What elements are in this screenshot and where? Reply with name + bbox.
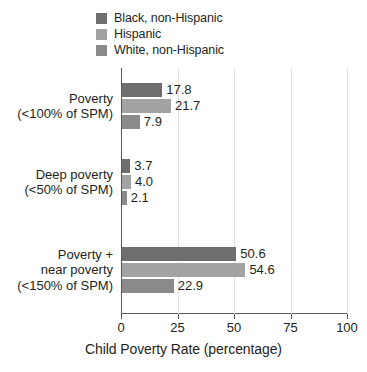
category-label-line: (<100% of SPM) bbox=[0, 106, 113, 122]
x-gridline bbox=[347, 68, 348, 314]
bar-value-label: 22.9 bbox=[178, 279, 203, 293]
legend-item[interactable]: White, non-Hispanic bbox=[96, 43, 336, 58]
category-label-line: near poverty bbox=[0, 262, 113, 278]
category-label: Deep poverty(<50% of SPM) bbox=[0, 167, 113, 198]
bar-value-label: 2.1 bbox=[131, 191, 149, 205]
legend-item[interactable]: Black, non-Hispanic bbox=[96, 11, 336, 26]
x-tick-mark bbox=[234, 314, 235, 319]
category-label-line: Poverty bbox=[0, 91, 113, 107]
bar-value-label: 54.6 bbox=[249, 263, 274, 277]
legend-swatch-icon bbox=[96, 29, 107, 40]
child-poverty-rate-bar-chart: Black, non-HispanicHispanicWhite, non-Hi… bbox=[0, 0, 367, 372]
bar bbox=[122, 279, 174, 293]
x-gridline bbox=[291, 68, 292, 314]
legend-item-label: Hispanic bbox=[114, 28, 161, 41]
x-tick-mark bbox=[178, 314, 179, 319]
legend-item[interactable]: Hispanic bbox=[96, 27, 336, 42]
bar bbox=[122, 263, 245, 277]
legend-swatch-icon bbox=[96, 45, 107, 56]
x-gridline bbox=[234, 68, 235, 314]
category-axis-labels: Poverty(<100% of SPM)Deep poverty(<50% o… bbox=[0, 68, 113, 314]
plot-area: 025507510017.83.750.621.74.054.67.92.122… bbox=[121, 68, 347, 314]
x-tick-mark bbox=[121, 314, 122, 319]
x-axis-title: Child Poverty Rate (percentage) bbox=[0, 341, 367, 357]
bar bbox=[122, 175, 131, 189]
x-tick-label: 25 bbox=[158, 320, 198, 335]
bar-value-label: 50.6 bbox=[240, 247, 265, 261]
legend-item-label: Black, non-Hispanic bbox=[114, 12, 223, 25]
category-label-line: Poverty + bbox=[0, 247, 113, 263]
bar bbox=[122, 115, 140, 129]
category-label-line: (<50% of SPM) bbox=[0, 182, 113, 198]
bar-value-label: 3.7 bbox=[134, 159, 152, 173]
x-tick-label: 50 bbox=[214, 320, 254, 335]
chart-legend: Black, non-HispanicHispanicWhite, non-Hi… bbox=[96, 11, 336, 59]
x-tick-label: 100 bbox=[327, 320, 367, 335]
legend-item-label: White, non-Hispanic bbox=[114, 44, 224, 57]
legend-swatch-icon bbox=[96, 13, 107, 24]
bar-value-label: 21.7 bbox=[175, 99, 200, 113]
x-tick-mark bbox=[347, 314, 348, 319]
category-label: Poverty +near poverty(<150% of SPM) bbox=[0, 247, 113, 294]
bar bbox=[122, 247, 236, 261]
category-label: Poverty(<100% of SPM) bbox=[0, 91, 113, 122]
bar bbox=[122, 83, 162, 97]
x-tick-label: 0 bbox=[101, 320, 141, 335]
bar bbox=[122, 159, 130, 173]
x-tick-label: 75 bbox=[271, 320, 311, 335]
bar bbox=[122, 191, 127, 205]
bar bbox=[122, 99, 171, 113]
bar-value-label: 4.0 bbox=[135, 175, 153, 189]
x-tick-mark bbox=[291, 314, 292, 319]
category-label-line: Deep poverty bbox=[0, 167, 113, 183]
category-label-line: (<150% of SPM) bbox=[0, 278, 113, 294]
bar-value-label: 7.9 bbox=[144, 115, 162, 129]
bar-value-label: 17.8 bbox=[166, 83, 191, 97]
